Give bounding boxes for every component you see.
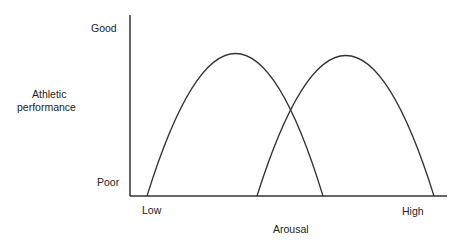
- y-tick-poor: Poor: [97, 176, 119, 188]
- y-axis-label-line2: performance: [17, 101, 76, 113]
- y-axis-label-line1: Athletic: [32, 88, 66, 100]
- chart-canvas: [0, 0, 463, 248]
- curve-2: [257, 56, 434, 197]
- x-tick-low: Low: [142, 204, 161, 216]
- x-tick-high: High: [402, 205, 424, 217]
- curve-1: [147, 54, 323, 197]
- y-tick-good: Good: [91, 22, 117, 34]
- x-axis-label: Arousal: [273, 223, 309, 235]
